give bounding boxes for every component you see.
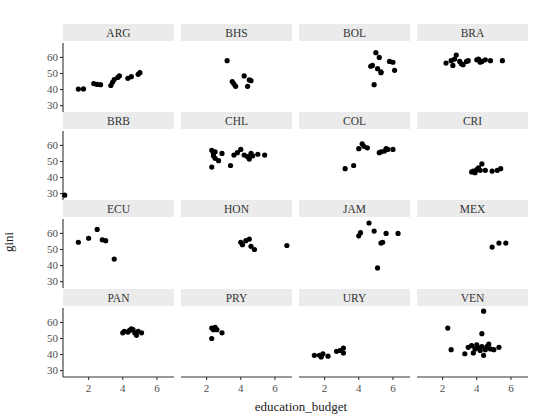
x-tick-label: 2	[322, 382, 328, 394]
data-point	[372, 82, 377, 87]
x-tick-label: 4	[238, 382, 244, 394]
data-point	[137, 70, 142, 75]
data-point	[496, 345, 501, 350]
facet-panel-mex: MEX	[417, 200, 528, 250]
data-point	[385, 147, 390, 152]
facet-panel-bol: BOL	[299, 24, 410, 87]
data-point	[490, 169, 495, 174]
x-tick-label: 6	[272, 382, 278, 394]
data-point	[129, 74, 134, 79]
data-point	[378, 70, 383, 75]
data-point	[117, 73, 122, 78]
facet-panel-ury: URY246	[299, 289, 410, 394]
data-point	[488, 58, 493, 63]
data-point	[491, 347, 496, 352]
data-point	[320, 351, 325, 356]
data-point	[103, 238, 108, 243]
data-point	[240, 242, 245, 247]
data-point	[284, 243, 289, 248]
data-point	[214, 327, 219, 332]
data-point	[95, 227, 100, 232]
data-point	[312, 353, 317, 358]
y-tick-label: 30	[47, 364, 59, 376]
data-point	[483, 57, 488, 62]
data-point	[383, 231, 388, 236]
data-point	[62, 193, 67, 198]
data-point	[233, 84, 238, 89]
data-point	[366, 220, 371, 225]
data-point	[375, 265, 380, 270]
data-point	[490, 244, 495, 249]
data-point	[368, 64, 373, 69]
facet-panel-brb: BRB30405060	[47, 112, 174, 200]
data-point	[445, 325, 450, 330]
facet-strip-label: BOL	[343, 27, 366, 39]
data-point	[216, 158, 221, 163]
faceted-scatter-chart: ARG30405060BHSBOLBRABRB30405060CHLCOLCRI…	[0, 0, 553, 420]
facet-strip-label: ARG	[106, 27, 130, 39]
y-tick-label: 50	[47, 243, 59, 255]
facet-panel-arg: ARG30405060	[47, 24, 174, 112]
data-point	[478, 168, 483, 173]
facet-strip-label: CRI	[463, 115, 482, 127]
facet-panel-ven: VEN246	[417, 289, 528, 394]
data-point	[98, 82, 103, 87]
facet-strip-label: VEN	[461, 292, 485, 304]
data-point	[76, 86, 81, 91]
y-tick-label: 50	[47, 155, 59, 167]
data-point	[395, 231, 400, 236]
x-axis-title: education_budget	[255, 399, 348, 414]
x-tick-label: 2	[204, 382, 210, 394]
facet-panel-chl: CHL	[181, 112, 292, 170]
data-point	[242, 73, 247, 78]
data-point	[252, 247, 257, 252]
data-point	[365, 145, 370, 150]
y-tick-label: 30	[47, 187, 59, 199]
data-point	[341, 350, 346, 355]
data-point	[390, 60, 395, 65]
facet-panel-hon: HON	[181, 200, 292, 252]
facet-strip-label: PAN	[108, 292, 131, 304]
data-point	[392, 68, 397, 73]
data-point	[225, 58, 230, 63]
facet-strip-label: MEX	[460, 203, 486, 215]
facet-strip-label: PRY	[226, 292, 248, 304]
data-point	[139, 330, 144, 335]
data-point	[351, 163, 356, 168]
facet-strip-label: BHS	[225, 27, 247, 39]
data-point	[358, 230, 363, 235]
data-point	[341, 346, 346, 351]
data-point	[76, 240, 81, 245]
data-point	[486, 342, 491, 347]
y-tick-label: 30	[47, 99, 59, 111]
y-tick-label: 40	[47, 83, 59, 95]
facet-panel-pan: PAN30405060246	[47, 289, 174, 394]
data-point	[496, 240, 501, 245]
y-tick-label: 50	[47, 332, 59, 344]
data-point	[498, 166, 503, 171]
data-point	[449, 347, 454, 352]
data-point	[248, 78, 253, 83]
facet-panel-pry: PRY246	[181, 289, 292, 394]
y-tick-label: 60	[47, 316, 59, 328]
x-tick-label: 6	[508, 382, 514, 394]
facet-panel-bra: BRA	[417, 24, 528, 68]
data-point	[443, 60, 448, 65]
data-point	[228, 163, 233, 168]
data-point	[86, 236, 91, 241]
facet-strip-label: COL	[343, 115, 366, 127]
facet-panel-cri: CRI	[417, 112, 528, 175]
data-point	[112, 257, 117, 262]
data-point	[209, 165, 214, 170]
y-tick-label: 40	[47, 348, 59, 360]
y-tick-label: 60	[47, 139, 59, 151]
data-point	[238, 147, 243, 152]
data-point	[483, 168, 488, 173]
y-tick-label: 60	[47, 227, 59, 239]
data-point	[219, 151, 224, 156]
data-point	[500, 58, 505, 63]
x-tick-label: 4	[356, 382, 362, 394]
data-point	[373, 50, 378, 55]
data-point	[250, 153, 255, 158]
facet-panel-ecu: ECU30405060	[47, 200, 174, 288]
